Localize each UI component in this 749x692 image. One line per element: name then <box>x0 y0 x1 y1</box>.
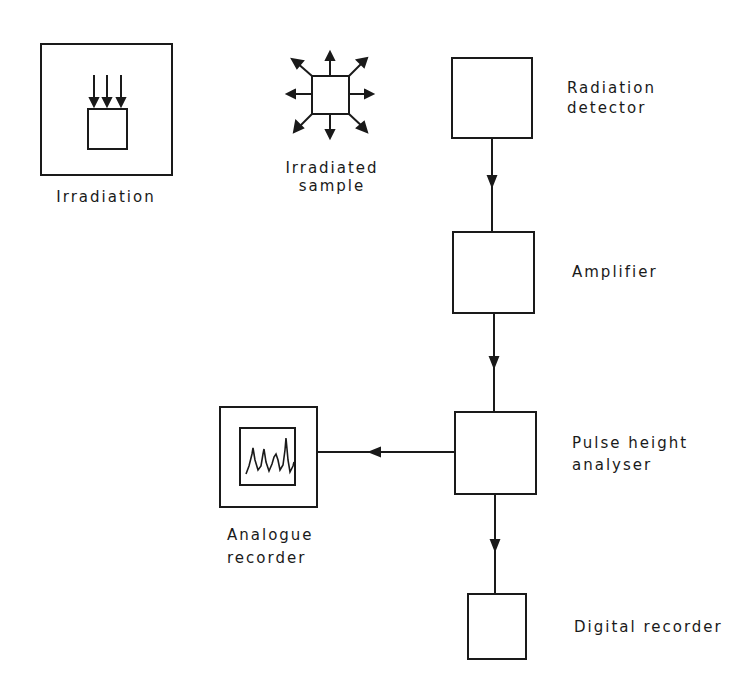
digital-recorder-block <box>468 594 526 659</box>
analogue-recorder-label-2: recorder <box>227 548 306 568</box>
amplifier-block <box>453 232 534 313</box>
connector-detector-amplifier <box>488 138 496 232</box>
pulse-height-analyser-block <box>455 412 536 494</box>
irradiated-sample-label-2: sample <box>299 176 366 196</box>
emitting-sample-icon <box>287 52 373 138</box>
radiation-detector-label-2: detector <box>567 98 646 118</box>
analogue-recorder-label-1: Analogue <box>227 525 314 545</box>
analogue-recorder-block <box>220 407 317 507</box>
irradiation-label: Irradiation <box>56 187 155 207</box>
digital-recorder-label: Digital recorder <box>574 617 723 637</box>
amplifier-label: Amplifier <box>572 262 658 282</box>
connector-analyser-analogue <box>317 448 455 456</box>
pulse-height-analyser-label-1: Pulse height <box>572 433 688 453</box>
irradiation-chamber-icon <box>41 44 172 175</box>
pulse-height-analyser-label-2: analyser <box>572 455 652 475</box>
radiation-detector-label-1: Radiation <box>567 78 656 98</box>
spectrum-trace-icon <box>246 438 294 474</box>
connector-amplifier-analyser <box>490 313 498 412</box>
irradiated-sample-label-1: Irradiated <box>285 158 378 178</box>
connector-analyser-digital <box>491 494 499 594</box>
radiation-detector-block <box>452 58 532 138</box>
